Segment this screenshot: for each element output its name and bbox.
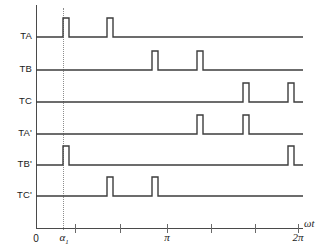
trace-ta-prime bbox=[36, 115, 303, 134]
trace-tb-prime bbox=[36, 146, 303, 165]
row-label-tc: TC bbox=[2, 96, 32, 106]
row-label-tb: TB bbox=[2, 64, 32, 74]
trace-tc-prime bbox=[36, 177, 303, 196]
x-tick-label-alpha1: α1 bbox=[53, 232, 75, 247]
trace-ta bbox=[36, 18, 303, 37]
trace-tc bbox=[36, 83, 303, 102]
pulse-timing-diagram: TATBTCTA'TB'TC' 0 α1 π 2π ωt bbox=[0, 0, 324, 252]
x-axis-title: ωt bbox=[304, 218, 314, 229]
row-label-tc-prime: TC' bbox=[2, 190, 32, 200]
alpha-subscript: 1 bbox=[65, 238, 68, 245]
trace-tb bbox=[36, 51, 303, 70]
trace-canvas bbox=[0, 0, 324, 252]
row-label-tb-prime: TB' bbox=[2, 159, 32, 169]
x-tick-label-zero: 0 bbox=[26, 233, 46, 244]
row-label-ta-prime: TA' bbox=[2, 128, 32, 138]
x-tick-label-pi: π bbox=[157, 232, 177, 243]
x-tick-label-two-pi: 2π bbox=[286, 232, 310, 243]
row-label-ta: TA bbox=[2, 31, 32, 41]
